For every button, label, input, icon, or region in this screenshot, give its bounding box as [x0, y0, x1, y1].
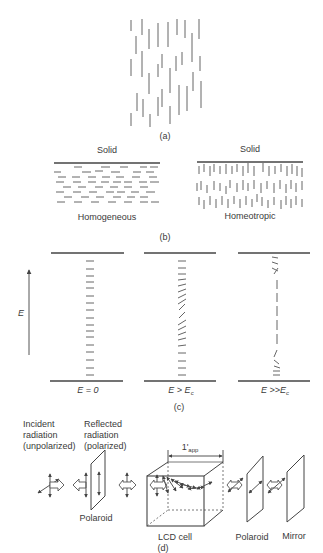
mirror-label: Mirror — [282, 531, 306, 541]
reflected-radiation-label: Reflected radiation (polarized) — [84, 419, 127, 451]
polaroid-1-label: Polaroid — [79, 513, 112, 523]
solid-label-right: Solid — [240, 144, 260, 154]
solid-label-left: Solid — [97, 145, 117, 155]
panel-a-caption: (a) — [160, 131, 171, 141]
panel-b-right-homeotropic: Solid Homeotropic — [197, 144, 303, 221]
incident-radiation-label: Incident radiation (unpolarized) — [23, 419, 76, 451]
panel-d-lcd-optics: Incident radiation (unpolarized) Reflect… — [23, 419, 306, 553]
panel-b-left-homogeneous: Solid Homogeneous — [54, 145, 160, 222]
lcd-cell-label: LCD cell — [158, 532, 192, 542]
panel-c-field-cells: E — [18, 253, 310, 412]
homeotropic-label: Homeotropic — [224, 211, 276, 221]
mirror-icon: Mirror — [267, 455, 306, 541]
lcd-cell-cube: LCD cell — [147, 462, 223, 542]
cell-e-greater-ec: E > Ec — [144, 253, 216, 396]
cell-e-zero: E = 0 — [50, 253, 124, 395]
panel-a-nematic-rods: (a) — [131, 19, 201, 141]
cell-e-greater-ec-label: E > Ec — [168, 385, 193, 396]
lcd-diagram-figure: (a) Solid Homogeneous Solid — [0, 0, 323, 553]
panel-c-caption: (c) — [174, 402, 185, 412]
cell-e-much-greater-ec-label: E >>Ec — [261, 385, 289, 396]
polaroid-2-icon: Polaroid — [227, 456, 269, 542]
panel-b-caption: (b) — [160, 232, 171, 242]
twisted-director-arrows — [150, 475, 212, 496]
cell-e-zero-label: E = 0 — [77, 385, 98, 395]
cell-e-much-greater-ec: E >>Ec — [238, 253, 310, 396]
unpolarized-light-icon — [38, 474, 64, 497]
polarized-light-icon — [119, 473, 136, 497]
cell-thickness-label: 1'app — [182, 442, 199, 453]
electric-field-label: E — [18, 308, 25, 318]
polaroid-2-label: Polaroid — [235, 532, 268, 542]
homogeneous-label: Homogeneous — [78, 212, 137, 222]
panel-d-caption: (d) — [158, 543, 169, 553]
cell-thickness-dimension: 1'app — [168, 442, 223, 462]
polaroid-1-icon: Polaroid — [73, 450, 113, 523]
